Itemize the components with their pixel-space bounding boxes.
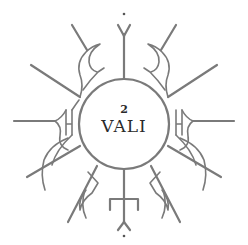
upper-right-horn-icon [144,25,217,97]
lower-right-hook-icon [150,135,221,222]
top-spoke-icon [118,13,130,79]
logo-brand-name: VALI [0,116,248,136]
lower-left-hook-icon [27,135,98,222]
logo-numeral: 2 [0,103,248,116]
bottom-spoke-icon [110,169,138,237]
upper-left-horn-icon [31,25,104,97]
